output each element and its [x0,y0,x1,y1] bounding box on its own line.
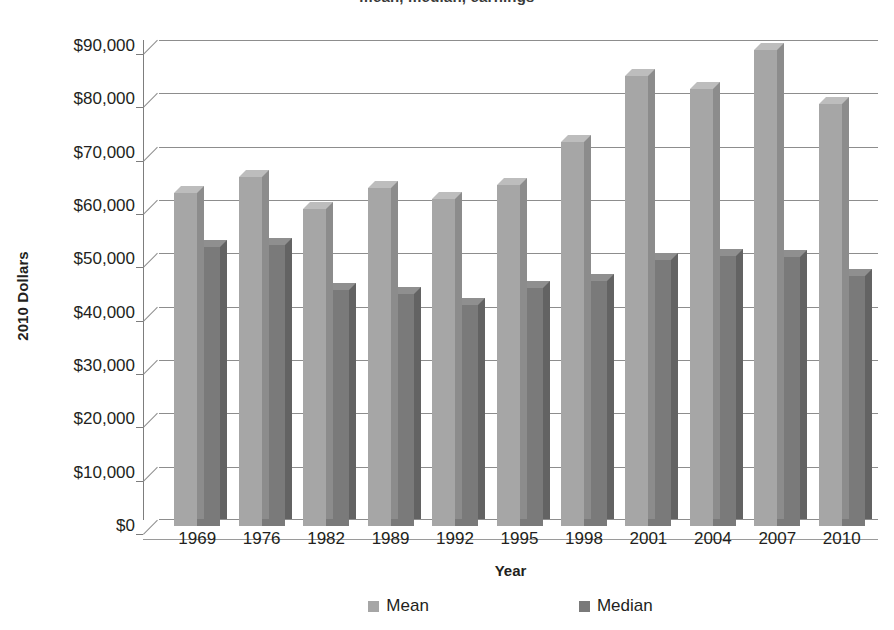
x-axis-tick-label: 1976 [243,529,281,549]
y-axis-tick [136,534,143,535]
bar-face [303,209,326,526]
y-axis-tick [136,427,143,428]
bar-face [497,185,520,526]
bar-side [842,97,849,519]
y-axis-tick-label: $50,000 [30,249,135,269]
y-axis-tick [136,267,143,268]
y-axis-title: 2010 Dollars [14,196,31,396]
bar-face [239,177,262,526]
bar-mean-2004 [690,89,713,526]
bar-mean-1982 [303,209,326,526]
y-axis-tick [136,54,143,55]
y-axis-tick [136,481,143,482]
y-axis-tick-label: $60,000 [30,196,135,216]
bar-mean-1995 [497,185,520,526]
chart-legend: MeanMedian [143,592,878,620]
bar-side [197,186,204,519]
bar-side [736,249,743,519]
bar-face [368,188,391,526]
bar-side [800,250,807,519]
chart-title-text: mean, median, earnings [359,0,534,5]
bar-side [220,240,227,519]
y-axis-tick [136,321,143,322]
legend-label: Median [597,596,653,616]
x-axis-tick-label: 1995 [501,529,539,549]
bar-side [584,135,591,519]
bar-chart: mean, median, earnings 2010 Dollars $0$1… [0,0,894,630]
x-axis-tick-label: 2001 [629,529,667,549]
bar-side [414,287,421,519]
y-axis-tick [136,214,143,215]
legend-item-mean[interactable]: Mean [368,596,429,616]
legend-swatch-icon [368,601,379,612]
plot-area [143,40,878,522]
x-axis-tick-label: 1992 [436,529,474,549]
bar-side [349,283,356,519]
x-axis-tick-label: 2007 [758,529,796,549]
bar-side [326,202,333,519]
legend-item-median[interactable]: Median [579,596,653,616]
bar-face [432,199,455,526]
y-axis-tick [136,374,143,375]
bar-side [262,170,269,519]
x-axis-tick-label: 1969 [178,529,216,549]
bar-mean-2010 [819,104,842,526]
bar-side [865,269,872,519]
y-axis-tick [136,161,143,162]
bar-face [625,76,648,526]
y-axis-tick-label: $20,000 [30,409,135,429]
x-axis-tick-labels: 1969197619821989199219951998200120042007… [143,529,878,557]
bar-side [648,69,655,519]
bar-side [478,298,485,519]
bar-mean-2001 [625,76,648,526]
bar-series-container [143,40,878,540]
y-axis-tick-labels: $0$10,000$20,000$30,000$40,000$50,000$60… [30,0,135,630]
bar-face [690,89,713,526]
legend-label: Mean [386,596,429,616]
x-axis-tick-label: 1982 [307,529,345,549]
bar-side [455,192,462,519]
x-axis-tick-label: 2010 [823,529,861,549]
x-axis-tick-label: 1998 [565,529,603,549]
x-axis-tick-label: 2004 [694,529,732,549]
bar-face [561,142,584,526]
bar-side [607,274,614,519]
y-axis-tick-label: $90,000 [30,36,135,56]
bar-side [520,178,527,519]
bar-side [777,43,784,519]
bar-side [285,238,292,519]
y-axis-tick-label: $70,000 [30,143,135,163]
bar-mean-1989 [368,188,391,526]
x-axis-tick-label: 1989 [372,529,410,549]
y-axis-tick-label: $10,000 [30,463,135,483]
y-axis-tick-label: $40,000 [30,303,135,323]
x-axis-title: Year [143,562,878,579]
bar-side [713,82,720,519]
bar-mean-1998 [561,142,584,526]
y-axis-tick-label: $0 [30,516,135,536]
bar-side [671,253,678,519]
bar-face [754,50,777,526]
y-axis-tick-label: $30,000 [30,356,135,376]
bar-mean-1969 [174,193,197,526]
bar-mean-1992 [432,199,455,526]
bar-mean-2007 [754,50,777,526]
bar-side [543,281,550,519]
bar-side [391,181,398,519]
y-axis-tick [136,107,143,108]
bar-face [174,193,197,526]
bar-mean-1976 [239,177,262,526]
bar-face [819,104,842,526]
y-axis-tick-label: $80,000 [30,89,135,109]
legend-swatch-icon [579,601,590,612]
